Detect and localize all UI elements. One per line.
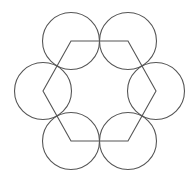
hexagon: [43, 41, 156, 141]
hexagon-circles-diagram: [0, 0, 196, 185]
circle-group: [15, 13, 185, 170]
